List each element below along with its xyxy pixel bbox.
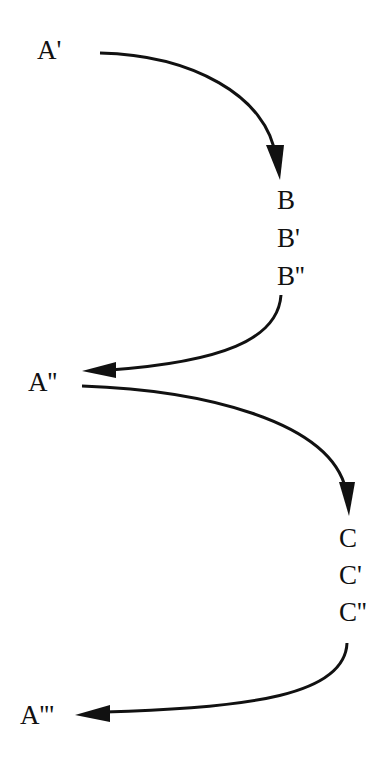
arrowhead-icon xyxy=(266,145,284,180)
node-b: B xyxy=(277,187,295,214)
arrows-layer xyxy=(0,0,390,759)
node-b-prime: B' xyxy=(277,225,300,252)
node-c-double-prime: C'' xyxy=(339,599,367,626)
node-b-double-prime: B'' xyxy=(277,263,305,290)
node-a-prime: A' xyxy=(37,37,61,64)
arrow-c2-to-a3 xyxy=(75,643,347,722)
arrowhead-icon xyxy=(339,482,355,516)
node-a-triple-prime: A''' xyxy=(20,702,54,729)
node-c-prime: C' xyxy=(339,562,362,589)
arrow-a1-to-b xyxy=(100,53,284,180)
node-c: C xyxy=(339,525,357,552)
arrow-a2-to-c xyxy=(82,386,355,516)
arrowhead-icon xyxy=(82,362,116,378)
node-a-double-prime: A'' xyxy=(28,369,57,396)
arrow-b2-to-a2 xyxy=(82,295,281,378)
arrowhead-icon xyxy=(75,705,110,722)
